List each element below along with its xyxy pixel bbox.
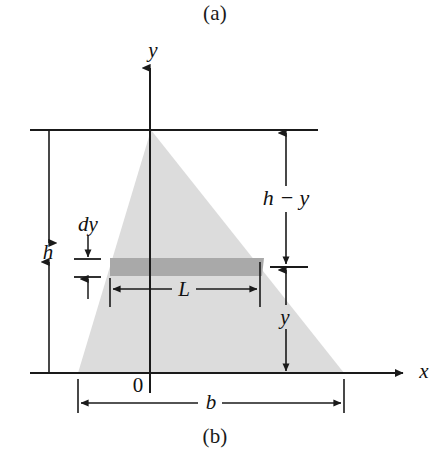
- dimension-label-L: L: [178, 277, 190, 302]
- dimension-dy: [74, 236, 101, 299]
- dimension-label-y: y: [280, 305, 289, 330]
- y-axis-label: y: [148, 38, 157, 63]
- dimension-label-h: h: [43, 240, 54, 265]
- caption-b: (b): [202, 424, 227, 449]
- origin-label: 0: [133, 373, 144, 398]
- triangle-shape: [78, 130, 344, 373]
- triangle-integration-diagram: [0, 0, 439, 471]
- x-axis-label: x: [419, 359, 428, 384]
- dimension-label-h-minus-y: h − y: [263, 185, 310, 211]
- figure-container: (a) (b) y x 0 h b dy L y h − y: [0, 0, 439, 471]
- dimension-label-dy: dy: [78, 212, 98, 237]
- differential-strip: [110, 258, 264, 276]
- caption-a: (a): [203, 1, 227, 26]
- dimension-label-b: b: [206, 390, 217, 415]
